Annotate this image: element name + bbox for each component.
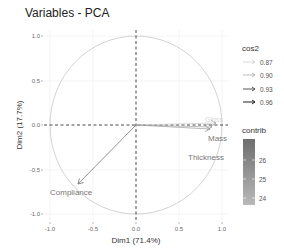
x-tick: -0.5	[88, 226, 99, 232]
label-gloss: Gloss	[205, 116, 223, 123]
label-compliance: Compliance	[50, 188, 93, 197]
legend-cos2-entry: 0.87	[260, 59, 273, 66]
x-axis-label: Dim1 (71.4%)	[112, 236, 161, 245]
y-tick: 1.0	[32, 33, 41, 39]
legend-cos2-entry: 0.93	[260, 86, 273, 93]
legend-contrib-title: contrib	[242, 126, 267, 135]
arrow-compliance	[78, 125, 136, 184]
legend-contrib: contrib 26 25 24	[242, 126, 267, 205]
y-tick: 0.5	[32, 78, 41, 84]
x-axis: -1.0 -0.5 0.0 0.5 1.0	[45, 222, 227, 232]
contrib-colorbar	[243, 139, 255, 205]
legend-cos2-entry: 0.96	[260, 99, 273, 106]
y-axis: 1.0 0.5 0.0 -0.5 -1.0	[30, 33, 43, 217]
legend-cos2-title: cos2	[242, 44, 259, 53]
legend-cos2-entry: 0.90	[260, 72, 273, 79]
y-axis-label: Dim2 (17.7%)	[15, 100, 24, 149]
pca-plot: Gloss Mass Thickness Compliance 1.0 0.5 …	[0, 0, 284, 252]
label-mass: Mass	[208, 134, 227, 143]
y-tick: -1.0	[30, 211, 41, 217]
x-tick: -1.0	[45, 226, 56, 232]
legend-arrow-icon	[243, 60, 255, 104]
y-tick: 0.0	[32, 122, 41, 128]
label-thickness: Thickness	[188, 153, 224, 162]
legend-cos2: cos2 0.87 0.90 0.93 0.96	[242, 44, 273, 106]
x-tick: 0.0	[132, 226, 141, 232]
legend-contrib-tick: 26	[259, 157, 267, 164]
legend-contrib-tick: 24	[259, 195, 267, 202]
x-tick: 1.0	[218, 226, 227, 232]
x-tick: 0.5	[175, 226, 184, 232]
legend-contrib-tick: 25	[259, 176, 267, 183]
y-tick: -0.5	[30, 167, 41, 173]
